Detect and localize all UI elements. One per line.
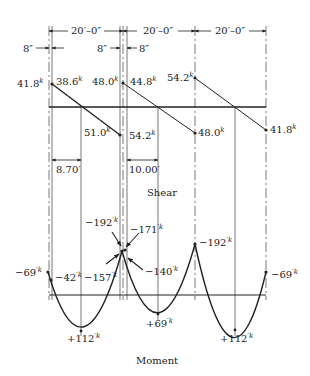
- moment-value: −42′k: [55, 271, 82, 283]
- shear-value: 44.8k: [130, 75, 157, 87]
- column-width-left: 8″: [23, 43, 33, 54]
- moment-value: +112′k: [67, 332, 100, 344]
- shear-value: 38.6k: [56, 75, 83, 87]
- span-1-dimension: 20′–0″: [71, 25, 101, 36]
- moment-value: −192′k: [85, 216, 118, 228]
- moment-value: −140′k: [145, 265, 178, 277]
- moment-value: +112′k: [220, 332, 253, 344]
- moment-value: −192′k: [199, 236, 232, 248]
- column-width-mid-left: 8″: [97, 43, 107, 54]
- moment-value: −69′k: [271, 268, 298, 280]
- zero-shear-distance-1: 8.70′: [56, 164, 81, 175]
- moment-title: Moment: [136, 355, 178, 366]
- span-2-dimension: 20′–0″: [143, 25, 173, 36]
- shear-value: 54.2k: [129, 129, 156, 141]
- shear-title: Shear: [147, 187, 177, 198]
- shear-value: 48.0k: [198, 126, 225, 138]
- span-3-dimension: 20′–0″: [215, 25, 245, 36]
- shear-value: 51.0k: [84, 126, 111, 138]
- moment-value: +69′k: [146, 317, 173, 329]
- shear-value: 41.8k: [17, 77, 44, 89]
- shear-value: 48.0k: [92, 75, 119, 87]
- shear-value: 41.8k: [270, 123, 297, 135]
- support-lines: [49, 26, 266, 336]
- zero-shear-distance-2: 10.00′: [129, 164, 161, 175]
- moment-value: −69′k: [15, 266, 42, 278]
- shear-value: 54.2k: [167, 71, 194, 83]
- column-width-mid-right: 8″: [139, 43, 149, 54]
- shear-moment-diagram: 20′–0″ 20′–0″ 20′–0″ 8″ 8″ 8″ 8.70′ 10.0…: [0, 0, 310, 376]
